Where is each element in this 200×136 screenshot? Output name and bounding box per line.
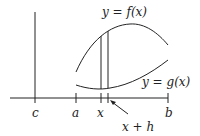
tick-xh-label: x + h [122,120,154,134]
tick-a-label: a [72,106,79,120]
f-curve [76,24,168,72]
area-between-curves-diagram: y = f(x) y = g(x) c a x b x + h [0,0,200,136]
tick-c-label: c [32,106,39,120]
xh-pointer-arrow [112,102,128,114]
tick-x-label: x [97,106,104,120]
f-curve-label: y = f(x) [101,5,147,19]
g-curve-label: y = g(x) [141,75,191,89]
tick-b-label: b [165,106,173,120]
